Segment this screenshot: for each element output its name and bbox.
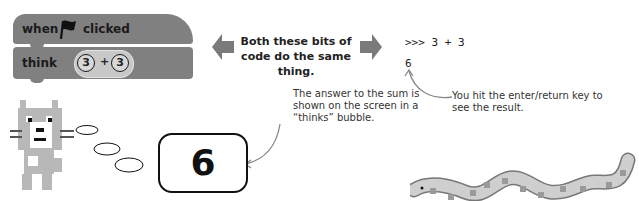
plus-operator: +: [100, 55, 109, 68]
block-notch-bottom: [30, 78, 44, 83]
arrow-right-icon: [360, 32, 382, 62]
clicked-label: clicked: [83, 22, 130, 36]
python-snake-sprite: [410, 150, 639, 201]
operand-left[interactable]: 3: [77, 54, 95, 72]
scratch-cat-sprite: [10, 98, 74, 198]
thinks-bubble: 6: [158, 133, 248, 193]
enter-key-note: You hit the enter/return key to see the …: [452, 90, 622, 114]
thought-trail-icon: [74, 125, 158, 175]
when-label: when: [22, 22, 58, 36]
operand-right[interactable]: 3: [111, 54, 129, 72]
green-flag-icon: [58, 18, 78, 40]
shell-prompt-line: >>> 3 + 3: [405, 36, 465, 49]
think-label: think: [22, 56, 57, 70]
comparison-caption: Both these bits of code do the same thin…: [236, 34, 356, 79]
thinks-bubble-note: The answer to the sum is shown on the sc…: [293, 88, 433, 124]
arrow-left-icon: [212, 32, 234, 62]
